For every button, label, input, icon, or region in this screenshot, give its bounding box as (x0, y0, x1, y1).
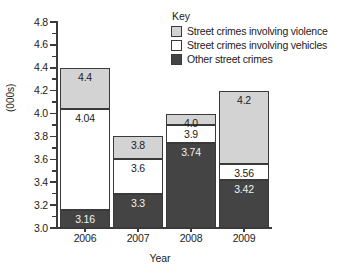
legend-items: Street crimes involving violenceStreet c… (171, 25, 343, 65)
bar-segment-violence: 4.2 (219, 91, 269, 164)
stacked-bar-chart: 3.03.23.43.63.84.04.24.44.64.8 (000s) 3.… (0, 0, 348, 275)
y-tick-minor (52, 56, 56, 58)
bar-segment-other: 3.16 (60, 210, 110, 228)
y-tick-minor (52, 124, 56, 126)
y-tick-major (50, 136, 56, 138)
bar-segment-other: 3.74 (166, 143, 216, 228)
y-tick-label: 3.0 (18, 223, 48, 234)
y-tick-label: 3.6 (18, 154, 48, 165)
y-tick-major (50, 204, 56, 206)
y-tick-major (50, 44, 56, 46)
y-tick-minor (52, 147, 56, 149)
bar-segment-label: 3.6 (131, 163, 145, 174)
y-tick-major (50, 67, 56, 69)
legend-item-other: Other street crimes (171, 53, 343, 65)
bar-segment-vehicles: 3.6 (113, 159, 163, 193)
y-tick-label: 4.0 (18, 108, 48, 119)
y-tick-label: 3.4 (18, 177, 48, 188)
y-tick-major (50, 113, 56, 115)
legend-title: Key (171, 10, 343, 22)
y-tick-label: 3.2 (18, 200, 48, 211)
bar-segment-other: 3.3 (113, 194, 163, 228)
bar-segment-label: 3.74 (181, 147, 201, 158)
bar-segment-label: 3.3 (131, 198, 145, 209)
bar-segment-label: 4.0 (184, 118, 198, 129)
bar-segment-violence: 3.8 (113, 136, 163, 159)
y-tick-label: 4.8 (18, 17, 48, 28)
bar-segment-label: 4.4 (78, 72, 92, 83)
y-tick-major (50, 227, 56, 229)
y-tick-label: 4.4 (18, 62, 48, 73)
bar-segment-label: 3.56 (234, 168, 254, 179)
legend-item-label: Other street crimes (187, 53, 272, 65)
x-axis-title: Year (0, 253, 320, 264)
bar-segment-other: 3.42 (219, 180, 269, 228)
y-axis-title: (000s) (6, 84, 16, 112)
legend-item-label: Street crimes involving violence (187, 25, 328, 37)
bar-2007: 3.33.63.8 (113, 22, 163, 228)
bar-segment-label: 4.2 (237, 95, 251, 106)
bar-segment-label: 4.04 (75, 113, 95, 124)
y-tick-minor (52, 101, 56, 103)
x-tick-label-2008: 2008 (165, 233, 217, 244)
legend-item-vehicles: Street crimes involving vehicles (171, 39, 343, 51)
bar-segment-vehicles: 4.04 (60, 109, 110, 210)
y-tick-major (50, 159, 56, 161)
bar-segment-violence: 4.0 (166, 114, 216, 125)
y-tick-minor (52, 78, 56, 80)
y-tick-major (50, 21, 56, 23)
y-tick-minor (52, 170, 56, 172)
legend-swatch-violence-icon (171, 26, 182, 37)
bar-segment-label: 3.8 (131, 140, 145, 151)
y-tick-label: 4.6 (18, 39, 48, 50)
x-tick-label-2006: 2006 (59, 233, 111, 244)
legend-item-violence: Street crimes involving violence (171, 25, 343, 37)
bar-segment-label: 3.9 (184, 129, 198, 140)
legend-swatch-vehicles-icon (171, 40, 182, 51)
y-tick-label: 4.2 (18, 85, 48, 96)
y-tick-minor (52, 193, 56, 195)
bar-segment-label: 3.16 (75, 214, 95, 225)
y-tick-minor (52, 33, 56, 35)
bar-segment-violence: 4.4 (60, 68, 110, 109)
legend-item-label: Street crimes involving vehicles (187, 39, 327, 51)
y-tick-major (50, 90, 56, 92)
bar-2006: 3.164.044.4 (60, 22, 110, 228)
x-tick-label-2007: 2007 (112, 233, 164, 244)
y-tick-minor (52, 216, 56, 218)
y-tick-label: 3.8 (18, 131, 48, 142)
y-tick-major (50, 181, 56, 183)
legend-swatch-other-icon (171, 54, 182, 65)
bar-segment-label: 3.42 (234, 184, 254, 195)
x-tick-label-2009: 2009 (218, 233, 270, 244)
bar-segment-vehicles: 3.56 (219, 164, 269, 180)
legend: Key Street crimes involving violenceStre… (171, 10, 343, 67)
